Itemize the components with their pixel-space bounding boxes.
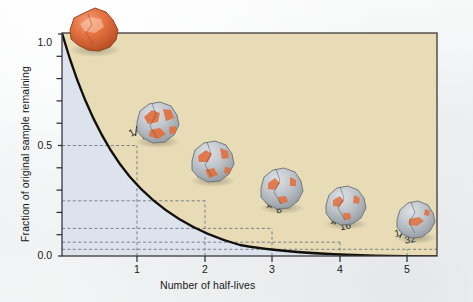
xtick-label-3: 3: [262, 263, 282, 275]
x-axis-title: Number of half-lives: [160, 279, 360, 291]
y-axis-title: Fraction of original sample remaining: [19, 54, 31, 254]
xtick-label-4: 4: [330, 263, 350, 275]
ytick-label-1.0: 1.0: [22, 36, 52, 48]
plot-regions: [62, 33, 437, 257]
half-life-decay-figure: 1 2 1 4 1 8 1 16 1 32: [0, 0, 473, 302]
decay-plot: 1 2 1 4 1 8 1 16 1 32: [0, 0, 473, 302]
x-axis-ticks: [137, 256, 407, 262]
xtick-label-2: 2: [195, 263, 215, 275]
xtick-label-1: 1: [127, 263, 147, 275]
sample-0-half-lives: [69, 8, 121, 57]
y-axis-ticks: [57, 34, 63, 256]
xtick-label-5: 5: [397, 263, 417, 275]
